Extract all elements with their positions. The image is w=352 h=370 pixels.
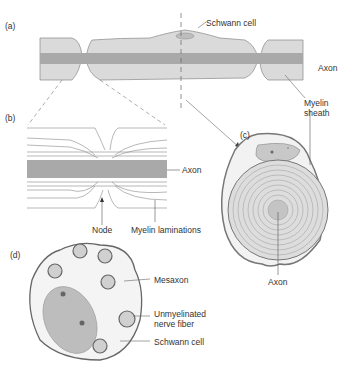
panel-d-tag: (d) [10,250,20,260]
panel-c-myelinated-cross-section [222,110,328,275]
node-label: Node [92,225,112,235]
panel-b-node-detail [27,128,180,225]
panel-b-tag: (b) [5,113,15,123]
panel-c-tag: (c) [240,130,250,140]
panel-a-tag: (a) [5,21,15,31]
axon-label-a: Axon [318,63,337,73]
myelin-label-2: sheath [304,108,330,118]
schwann-cell-label-a: Schwann cell [206,18,256,28]
unmyelinated-label-2: nerve fiber [154,319,194,329]
panel-d-unmyelinated-cross-section [30,243,150,362]
myelin-label-1: Myelin [304,98,329,108]
unmyelinated-label-1: Unmyelinated [154,309,206,319]
axon-label-b: Axon [182,165,201,175]
axon-label-c: Axon [268,277,287,287]
mesaxon-label: Mesaxon [154,275,189,285]
schwann-cell-label-d: Schwann cell [154,337,204,347]
myelin-laminations-label: Myelin laminations [131,225,201,235]
